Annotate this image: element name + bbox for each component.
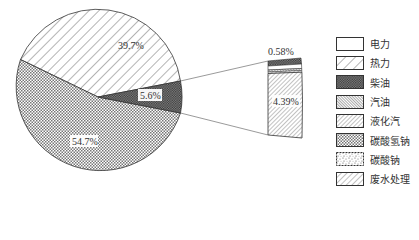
connector-line-bottom [181,113,269,135]
legend-item-lpg: 液化汽 [336,111,410,130]
connector-line-top [181,61,269,81]
swatch-diag-wide-icon [336,56,364,70]
legend-item-electricity: 电力 [336,34,410,53]
legend-item-diesel: 柴油 [336,73,410,92]
label-other-pct: 5.6% [140,90,161,101]
label-diesel-pct: 0.58% [268,46,294,57]
legend-item-heat: 热力 [336,53,410,72]
label-wastewater-pct: 4.39% [273,96,299,107]
swatch-speckle-icon [336,152,364,166]
swatch-crosshatch-icon [336,133,364,147]
legend: 电力 热力 柴油 汽油 液化汽 碳酸氢钠 碳酸钠 废水处理 [336,34,410,188]
legend-item-gasoline: 汽油 [336,92,410,111]
swatch-diag-medium-icon [336,114,364,128]
legend-item-wastewater: 废水处理 [336,169,410,188]
swatch-diag-light-icon [336,172,364,186]
swatch-white-icon [336,37,364,51]
legend-item-sodium-carbonate: 碳酸钠 [336,150,410,169]
swatch-dark-crosshatch-icon [336,75,364,89]
swatch-diag-dense-icon [336,95,364,109]
label-heat-pct: 39.7% [118,40,144,51]
label-bicarb-pct: 54.7% [72,136,98,147]
legend-item-sodium-bicarbonate: 碳酸氢钠 [336,130,410,149]
